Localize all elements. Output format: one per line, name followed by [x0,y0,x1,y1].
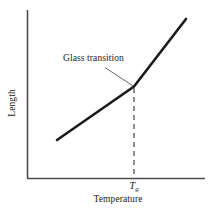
plot-canvas [0,0,213,213]
y-axis-title: Length [8,89,18,117]
tg-symbol: T [129,180,135,191]
x-axis-title: Temperature [94,195,143,205]
glass-transition-figure: Glass transition Length Temperature Tg [0,0,213,213]
x-axis-tick-label-tg: Tg [129,181,138,193]
tg-subscript: g [135,185,139,193]
data-curve [57,19,186,140]
annotation-leader-line [105,68,133,87]
annotation-label: Glass transition [63,54,124,64]
